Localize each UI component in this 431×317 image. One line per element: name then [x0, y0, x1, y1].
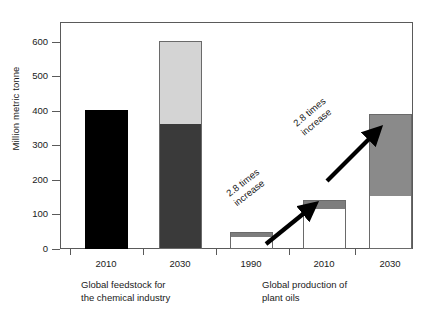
group-caption-plantoils-line2: plant oils: [262, 292, 347, 305]
x-tick-mark-4: [355, 249, 356, 255]
bar-segment-additional-feedstock: [160, 42, 201, 124]
y-tick-mark-0: [52, 249, 60, 250]
group-caption-plantoils: Global production of plant oils: [262, 279, 347, 304]
y-tick-label-200: 200: [8, 175, 48, 185]
y-tick-mark-500: [52, 76, 60, 77]
y-tick-label-400: 400: [8, 106, 48, 116]
x-tick-mark-2: [216, 249, 217, 255]
x-tick-mark-1: [143, 249, 144, 255]
bar-segment-food-use: [370, 196, 411, 248]
group-caption-feedstock: Global feedstock for the chemical indust…: [81, 279, 170, 304]
x-tick-label-feedstock-2030: 2030: [150, 258, 210, 269]
bar-feedstock-2030[interactable]: [159, 41, 202, 249]
bar-feedstock-2010[interactable]: [85, 110, 128, 249]
y-tick-label-0: 0: [8, 244, 48, 254]
group-caption-feedstock-line1: Global feedstock for: [81, 279, 170, 292]
y-tick-label-500: 500: [8, 71, 48, 81]
bar-segment-fossil-feedstock: [85, 110, 128, 249]
x-tick-mark-0: [70, 249, 71, 255]
y-tick-mark-300: [52, 145, 60, 146]
x-tick-label-plantoils-1990: 1990: [221, 258, 281, 269]
y-tick-mark-200: [52, 180, 60, 181]
bar-segment-fossil-feedstock: [160, 124, 201, 248]
y-tick-label-100: 100: [8, 209, 48, 219]
x-tick-label-plantoils-2010: 2010: [294, 258, 354, 269]
y-tick-label-600: 600: [8, 37, 48, 47]
growth-arrow-1990-2010: [264, 200, 320, 248]
x-tick-mark-3: [289, 249, 290, 255]
x-tick-label-plantoils-2030: 2030: [360, 258, 420, 269]
y-tick-label-300: 300: [8, 140, 48, 150]
y-tick-mark-100: [52, 214, 60, 215]
y-tick-mark-600: [52, 42, 60, 43]
y-tick-mark-400: [52, 111, 60, 112]
chart-figure: Million metric tonne 0 100 200 300 400 5…: [0, 0, 431, 317]
x-tick-label-feedstock-2010: 2010: [76, 258, 136, 269]
group-caption-feedstock-line2: the chemical industry: [81, 292, 170, 305]
group-caption-plantoils-line1: Global production of: [262, 279, 347, 292]
growth-arrow-2010-2030: [325, 123, 387, 185]
